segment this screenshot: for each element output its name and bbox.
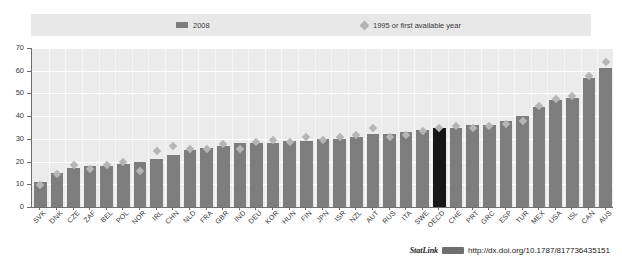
bar-group[interactable] bbox=[132, 48, 149, 207]
x-tick-label: CHN bbox=[164, 209, 180, 225]
bar-group[interactable] bbox=[348, 48, 365, 207]
bar-group[interactable] bbox=[165, 48, 182, 207]
bar-group[interactable] bbox=[514, 48, 531, 207]
x-tick-label: JPN bbox=[315, 209, 330, 224]
bar-group[interactable] bbox=[464, 48, 481, 207]
bar-group[interactable] bbox=[182, 48, 199, 207]
bar-group[interactable] bbox=[82, 48, 99, 207]
bar[interactable] bbox=[483, 125, 496, 207]
bar-group[interactable] bbox=[597, 48, 614, 207]
bar[interactable] bbox=[184, 150, 197, 207]
bar-group[interactable] bbox=[315, 48, 332, 207]
x-tick-label: BEL bbox=[99, 209, 114, 224]
bar[interactable] bbox=[367, 134, 380, 207]
x-tick-label: FIN bbox=[300, 209, 313, 222]
diamond-marker[interactable] bbox=[152, 147, 160, 155]
bar[interactable] bbox=[466, 125, 479, 207]
bar[interactable] bbox=[250, 143, 263, 207]
statlink-url[interactable]: http://dx.doi.org/10.1787/817736435151 bbox=[468, 246, 610, 255]
bar-swatch-icon bbox=[176, 22, 188, 28]
bar-group[interactable] bbox=[498, 48, 515, 207]
x-tick-label: TUR bbox=[514, 209, 530, 225]
bar-group[interactable] bbox=[265, 48, 282, 207]
bar[interactable] bbox=[100, 166, 113, 207]
x-tick-label: HUN bbox=[281, 209, 297, 225]
bar[interactable] bbox=[217, 146, 230, 207]
bar-group[interactable] bbox=[248, 48, 265, 207]
bar[interactable] bbox=[200, 148, 213, 207]
bar-group[interactable] bbox=[531, 48, 548, 207]
x-tick-label: AUT bbox=[365, 209, 380, 224]
x-tick-label: ITA bbox=[400, 209, 413, 222]
bar-group[interactable] bbox=[49, 48, 66, 207]
x-tick-label: ISR bbox=[333, 209, 347, 223]
bar[interactable] bbox=[333, 139, 346, 207]
x-tick-label: POL bbox=[115, 209, 130, 224]
bar-group[interactable] bbox=[115, 48, 132, 207]
bar[interactable] bbox=[150, 159, 163, 207]
bar[interactable] bbox=[533, 107, 546, 207]
bar-group[interactable] bbox=[564, 48, 581, 207]
bar[interactable] bbox=[516, 116, 529, 207]
bar-group[interactable] bbox=[32, 48, 49, 207]
y-tick-label: 40 bbox=[0, 111, 24, 120]
y-tick-label: 20 bbox=[0, 157, 24, 166]
bar-group[interactable] bbox=[481, 48, 498, 207]
x-tick-label: CZE bbox=[65, 209, 80, 224]
diamond-marker[interactable] bbox=[369, 124, 377, 132]
bar-group[interactable] bbox=[198, 48, 215, 207]
bar-group[interactable] bbox=[281, 48, 298, 207]
bar-group[interactable] bbox=[215, 48, 232, 207]
x-tick-label: IRL bbox=[151, 209, 164, 222]
bar[interactable] bbox=[566, 98, 579, 207]
bar[interactable] bbox=[450, 128, 463, 208]
y-tick-label: 0 bbox=[0, 202, 24, 211]
x-tick-label: NLD bbox=[182, 209, 197, 224]
diamond-marker[interactable] bbox=[169, 142, 177, 150]
bar[interactable] bbox=[400, 132, 413, 207]
bar[interactable] bbox=[317, 139, 330, 207]
bar[interactable] bbox=[117, 164, 130, 207]
chart-figure: 2008 1995 or first available year 010203… bbox=[0, 0, 622, 264]
bar[interactable] bbox=[433, 128, 446, 208]
bar[interactable] bbox=[549, 100, 562, 207]
bar-group[interactable] bbox=[65, 48, 82, 207]
bar[interactable] bbox=[500, 121, 513, 207]
diamond-marker[interactable] bbox=[601, 58, 609, 66]
plot-area bbox=[31, 48, 613, 207]
bar[interactable] bbox=[283, 141, 296, 207]
bar-group[interactable] bbox=[414, 48, 431, 207]
bar[interactable] bbox=[300, 141, 313, 207]
bar-group[interactable] bbox=[448, 48, 465, 207]
bar[interactable] bbox=[67, 168, 80, 207]
x-tick-label: CHE bbox=[447, 209, 463, 225]
bar-group[interactable] bbox=[99, 48, 116, 207]
bar-group[interactable] bbox=[581, 48, 598, 207]
bar-group[interactable] bbox=[431, 48, 448, 207]
legend-label-1995: 1995 or first available year bbox=[373, 21, 461, 30]
y-tick-label: 70 bbox=[0, 43, 24, 52]
bar-group[interactable] bbox=[547, 48, 564, 207]
bar[interactable] bbox=[583, 78, 596, 207]
x-tick-label: NOR bbox=[131, 209, 147, 225]
bar[interactable] bbox=[167, 155, 180, 207]
bar[interactable] bbox=[599, 68, 612, 207]
bar[interactable] bbox=[350, 137, 363, 207]
bar-group[interactable] bbox=[148, 48, 165, 207]
x-tick-label: USA bbox=[547, 209, 563, 225]
bar[interactable] bbox=[383, 134, 396, 207]
bar-group[interactable] bbox=[381, 48, 398, 207]
chart-legend: 2008 1995 or first available year bbox=[31, 14, 591, 36]
bar-group[interactable] bbox=[398, 48, 415, 207]
y-tick-label: 50 bbox=[0, 88, 24, 97]
bar[interactable] bbox=[416, 130, 429, 207]
bar-group[interactable] bbox=[331, 48, 348, 207]
diamond-swatch-icon bbox=[360, 20, 370, 30]
bar-group[interactable] bbox=[365, 48, 382, 207]
bar[interactable] bbox=[267, 143, 280, 207]
x-tick-label: DNK bbox=[48, 209, 64, 225]
bar-group[interactable] bbox=[298, 48, 315, 207]
x-tick-label: GBR bbox=[214, 209, 230, 225]
bar-group[interactable] bbox=[232, 48, 249, 207]
y-tick-label: 10 bbox=[0, 179, 24, 188]
